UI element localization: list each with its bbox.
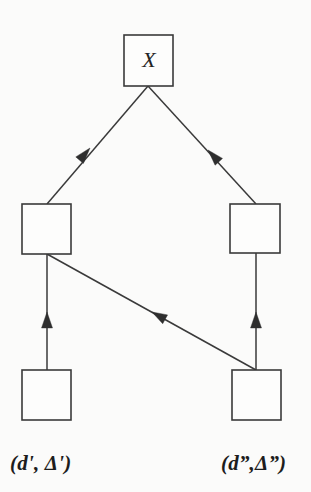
edge-middle-left-to-bottom-right: [47, 254, 256, 370]
diagram-canvas: X (d', Δ') (d”,Δ”): [0, 0, 311, 492]
edge-root-to-middle-right: [148, 86, 256, 204]
caption-left: (d', Δ'): [10, 451, 71, 475]
node-root-label: X: [141, 47, 157, 72]
arrowhead-middle-right-to-bottom-right: [251, 312, 262, 328]
edge-root-to-middle-left: [47, 86, 148, 204]
node-bottom-right[interactable]: [232, 370, 281, 420]
node-middle-right[interactable]: [230, 204, 280, 253]
node-bottom-left[interactable]: [22, 370, 71, 420]
edge-group: [47, 86, 256, 370]
node-middle-left[interactable]: [22, 204, 71, 254]
arrowhead-root-to-middle-left: [76, 145, 94, 164]
arrowhead-middle-left-to-bottom-right: [150, 308, 168, 324]
arrowhead-middle-left-to-bottom-left: [42, 312, 53, 328]
diagram-svg: X (d', Δ') (d”,Δ”): [0, 0, 311, 492]
caption-right: (d”,Δ”): [221, 451, 286, 475]
